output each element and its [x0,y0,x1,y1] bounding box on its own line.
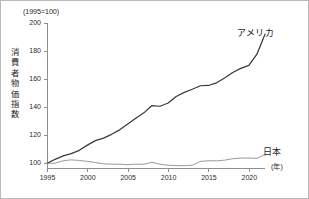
y-axis-title-char: 消 [9,47,20,57]
series-line-usa [47,34,265,163]
chart-unit-caption: (1995=100) [23,7,59,16]
series-line-japan [47,155,265,166]
y-axis-title-char: 者 [9,68,20,78]
y-axis-title-char: 費 [9,57,20,67]
y-axis-title-char: 指 [9,99,20,109]
x-axis-tick-label: 1995 [40,174,56,181]
x-axis-tick-label: 2005 [120,174,136,181]
x-axis-tick-label: 2020 [242,174,258,181]
series-label-usa: アメリカ [237,26,274,39]
y-axis-tick-label: 180 [29,47,41,54]
cpi-comparison-chart: (1995=100) 消 費 者 物 価 指 数 100120140160180… [0,0,309,199]
y-axis-tick-label: 140 [29,103,41,110]
y-axis-tick-label: 200 [29,19,41,26]
x-axis-tick-label: 2015 [201,174,217,181]
x-axis-tick-label: 2010 [161,174,177,181]
y-axis-title-char: 物 [9,78,20,88]
x-axis-tick-label: 2000 [80,174,96,181]
y-axis-title: 消 費 者 物 価 指 数 [9,47,20,120]
x-axis-unit-label: (年) [271,161,283,171]
plot-area: 100120140160180200 199520002005201020152… [47,23,265,169]
y-axis-title-char: 価 [9,89,20,99]
y-axis-tick-label: 160 [29,75,41,82]
y-axis-tick-label: 100 [29,159,41,166]
y-axis-title-char: 数 [9,109,20,119]
series-lines [47,23,265,169]
y-axis-tick-label: 120 [29,131,41,138]
series-label-japan: 日本 [263,145,281,158]
